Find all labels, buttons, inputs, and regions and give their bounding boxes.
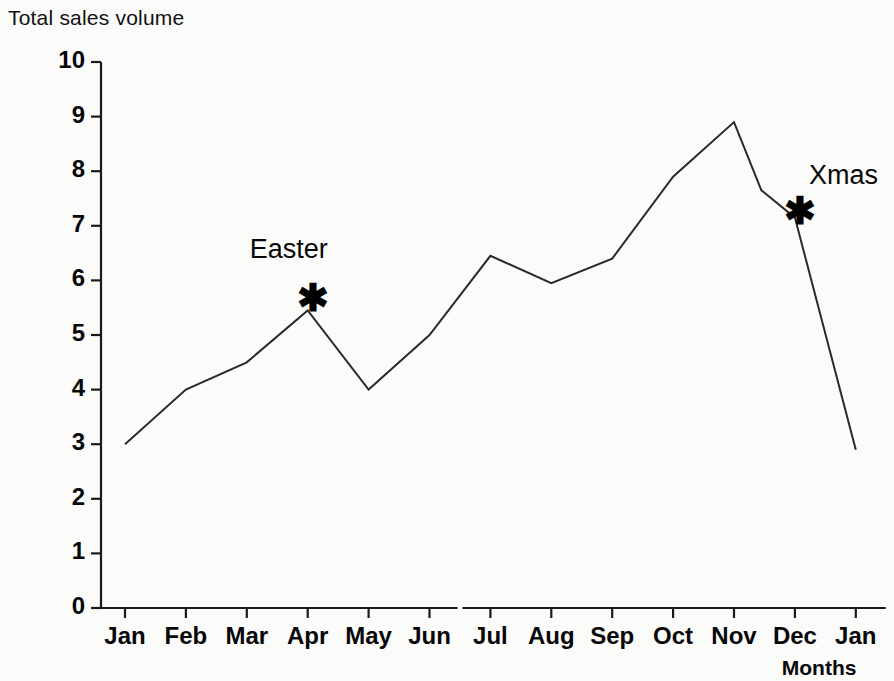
y-axis-tick-label: 2 bbox=[72, 483, 85, 511]
chart-container: Total sales volume 012345678910 JanFebMa… bbox=[0, 0, 894, 681]
axes-group bbox=[91, 62, 886, 618]
y-axis-tick-label: 3 bbox=[72, 428, 85, 456]
y-axis-tick-label: 4 bbox=[72, 374, 85, 402]
y-axis-tick-label: 7 bbox=[72, 210, 85, 238]
y-axis-tick-label: 1 bbox=[72, 537, 85, 565]
y-axis-tick-label: 6 bbox=[72, 264, 85, 292]
annotation-marker-xmas: ✱ bbox=[784, 192, 816, 230]
y-axis-tick-label: 0 bbox=[72, 592, 85, 620]
data-series-line bbox=[125, 122, 856, 450]
x-axis-tick-label: Jan bbox=[796, 622, 894, 650]
annotation-marker-easter: ✱ bbox=[297, 279, 329, 317]
sales-volume-line bbox=[125, 122, 856, 450]
y-axis-tick-label: 10 bbox=[58, 46, 85, 74]
chart-plot-area bbox=[0, 0, 894, 681]
y-axis-tick-label: 5 bbox=[72, 319, 85, 347]
annotation-label-xmas: Xmas bbox=[809, 160, 878, 191]
y-axis-tick-label: 9 bbox=[72, 101, 85, 129]
annotation-label-easter: Easter bbox=[250, 234, 328, 265]
x-axis-caption: Months bbox=[782, 656, 857, 680]
y-axis-tick-label: 8 bbox=[72, 155, 85, 183]
